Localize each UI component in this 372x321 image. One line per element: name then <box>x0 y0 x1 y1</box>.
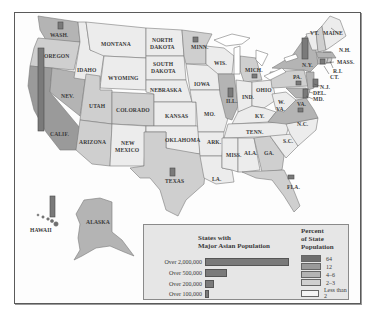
legend-percent-title: Percent of State Population <box>301 227 334 251</box>
svg-text:GA.: GA. <box>264 150 275 156</box>
svg-text:SOUTH: SOUTH <box>153 61 174 67</box>
svg-text:DAKOTA: DAKOTA <box>150 44 175 50</box>
bar-nj <box>313 79 318 87</box>
svg-text:VA.: VA. <box>297 101 307 107</box>
legend-percent-row: 64 <box>301 255 332 262</box>
svg-text:NEW: NEW <box>121 140 135 146</box>
svg-text:IND.: IND. <box>242 94 255 100</box>
svg-text:DAKOTA: DAKOTA <box>151 68 176 74</box>
svg-text:ALASKA: ALASKA <box>86 219 110 225</box>
svg-text:TENN.: TENN. <box>246 129 264 135</box>
svg-text:OHIO: OHIO <box>256 87 272 93</box>
svg-text:VA.: VA. <box>276 106 286 112</box>
svg-text:IDAHO: IDAHO <box>77 67 97 73</box>
svg-text:NORTH: NORTH <box>152 37 173 43</box>
bar-texas <box>170 168 175 176</box>
state-alaska[interactable] <box>74 198 134 260</box>
swatch <box>301 255 321 262</box>
bar-mich <box>252 74 257 78</box>
svg-text:WASH.: WASH. <box>50 32 69 38</box>
legend-percent-row: Less than 2 <box>301 287 348 299</box>
svg-text:TEXAS: TEXAS <box>165 178 184 184</box>
svg-text:FLA.: FLA. <box>287 184 300 190</box>
svg-text:MAINE: MAINE <box>323 30 343 36</box>
bar-ny <box>302 38 308 59</box>
legend: States with Major Asian Population Over … <box>143 224 349 300</box>
bar-calif <box>38 48 44 131</box>
state-massachusetts[interactable] <box>316 52 336 58</box>
svg-text:OREGON: OREGON <box>44 53 69 59</box>
bar-ill <box>228 88 233 97</box>
svg-text:VT.: VT. <box>310 30 320 36</box>
svg-text:KANSAS: KANSAS <box>165 113 188 119</box>
svg-text:ILL.: ILL. <box>226 98 238 104</box>
svg-text:MD.: MD. <box>313 96 325 102</box>
swatch <box>301 279 321 286</box>
size-bar <box>205 280 214 288</box>
bar-va <box>298 108 303 112</box>
legend-percent-row: 2–3 <box>301 279 335 286</box>
svg-text:MASS.: MASS. <box>337 59 355 65</box>
svg-text:MO.: MO. <box>204 111 216 117</box>
bar-minn <box>193 37 198 42</box>
swatch <box>301 263 321 270</box>
svg-text:PA.: PA. <box>293 74 302 80</box>
svg-text:MEXICO: MEXICO <box>115 147 140 153</box>
svg-text:IOWA: IOWA <box>194 81 210 87</box>
size-bar <box>205 290 209 298</box>
svg-text:MISS.: MISS. <box>226 152 242 158</box>
svg-text:WYOMING: WYOMING <box>108 75 139 81</box>
swatch <box>301 271 321 278</box>
legend-percent-row: 12 <box>301 263 332 270</box>
swatch <box>301 290 319 297</box>
svg-text:NEBRASKA: NEBRASKA <box>150 87 182 93</box>
svg-text:MONTANA: MONTANA <box>101 41 131 47</box>
svg-text:CALIF.: CALIF. <box>50 131 69 137</box>
svg-text:MINN.: MINN. <box>191 44 209 50</box>
svg-text:NEV.: NEV. <box>61 93 74 99</box>
legend-size-row: Over 2,000,000 <box>146 258 289 266</box>
legend-percent-row: 4–6 <box>301 271 335 278</box>
svg-text:ALA.: ALA. <box>244 150 258 156</box>
svg-text:N.C.: N.C. <box>297 121 309 127</box>
svg-text:HAWAII: HAWAII <box>30 227 52 233</box>
bar-fla <box>288 175 294 179</box>
legend-size-title: States with Major Asian Population <box>198 234 270 250</box>
svg-text:MICH.: MICH. <box>245 67 263 73</box>
svg-text:ARK.: ARK. <box>207 139 222 145</box>
bar-pa <box>296 81 301 85</box>
size-bar <box>205 269 227 277</box>
svg-text:LA.: LA. <box>212 176 222 182</box>
svg-text:S.C.: S.C. <box>283 138 294 144</box>
svg-text:KY.: KY. <box>255 113 265 119</box>
svg-text:COLORADO: COLORADO <box>116 107 150 113</box>
size-bar <box>205 258 289 266</box>
svg-text:N.H.: N.H. <box>339 47 351 53</box>
legend-size-row: Over 500,000 <box>146 269 227 277</box>
svg-text:W.: W. <box>278 99 285 105</box>
svg-text:ARIZONA: ARIZONA <box>79 139 106 145</box>
bar-hawaii <box>50 196 55 217</box>
bar-wash <box>58 22 63 29</box>
legend-size-row: Over 200,000 <box>146 280 214 288</box>
legend-size-row: Over 100,000 <box>146 290 209 298</box>
svg-text:OKLAHOMA: OKLAHOMA <box>165 137 200 143</box>
state-wyoming[interactable] <box>100 56 146 90</box>
svg-text:UTAH: UTAH <box>89 103 106 109</box>
svg-text:WIS.: WIS. <box>214 60 227 66</box>
bar-mass <box>320 59 325 64</box>
svg-text:CT.: CT. <box>330 74 340 80</box>
svg-text:N.Y.: N.Y. <box>302 62 313 68</box>
